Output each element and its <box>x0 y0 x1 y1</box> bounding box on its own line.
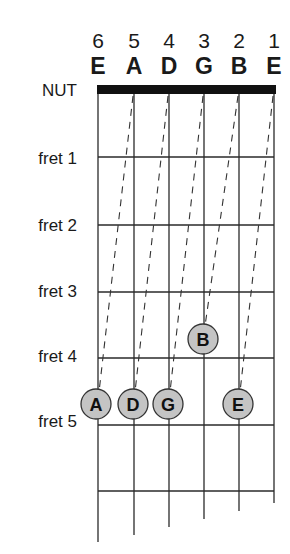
string-numbers: 6 5 4 3 2 1 <box>92 29 280 52</box>
nut-label: NUT <box>42 81 77 100</box>
string-name-5: A <box>126 53 143 79</box>
note-label: A <box>90 395 103 415</box>
string-name-1: E <box>266 53 281 79</box>
frets <box>98 157 274 491</box>
note-G: G <box>153 389 183 419</box>
fret-label-2: fret 2 <box>38 216 77 235</box>
notes: A D G B E <box>81 324 253 419</box>
fret-label-5: fret 5 <box>38 412 77 431</box>
guide-line-4-to-5 <box>135 96 168 392</box>
string-number-5: 5 <box>128 29 140 52</box>
fret-label-4: fret 4 <box>38 347 77 366</box>
string-number-2: 2 <box>233 29 245 52</box>
note-label: E <box>232 395 244 415</box>
note-E: E <box>223 389 253 419</box>
string-name-4: D <box>161 53 178 79</box>
fretboard-diagram: 6 5 4 3 2 1 E A D G B E NUT fret 1 fret … <box>0 0 290 554</box>
note-D: D <box>118 389 148 419</box>
string-names: E A D G B E <box>90 53 281 79</box>
note-label: D <box>127 395 140 415</box>
fret-label-1: fret 1 <box>38 149 77 168</box>
string-number-6: 6 <box>92 29 104 52</box>
string-number-4: 4 <box>163 29 175 52</box>
string-name-6: E <box>90 53 105 79</box>
guide-line-1-to-2 <box>240 96 273 392</box>
note-label: B <box>197 330 210 350</box>
tuning-guide-lines <box>99 96 273 392</box>
strings <box>98 90 274 542</box>
guide-line-5-to-6 <box>99 96 133 392</box>
nut-bar <box>97 85 276 94</box>
string-number-3: 3 <box>198 29 210 52</box>
string-name-2: B <box>231 53 248 79</box>
note-B: B <box>188 324 218 354</box>
fret-label-3: fret 3 <box>38 282 77 301</box>
string-number-1: 1 <box>268 29 280 52</box>
note-A: A <box>81 389 111 419</box>
string-name-3: G <box>195 53 213 79</box>
note-label: G <box>161 395 175 415</box>
